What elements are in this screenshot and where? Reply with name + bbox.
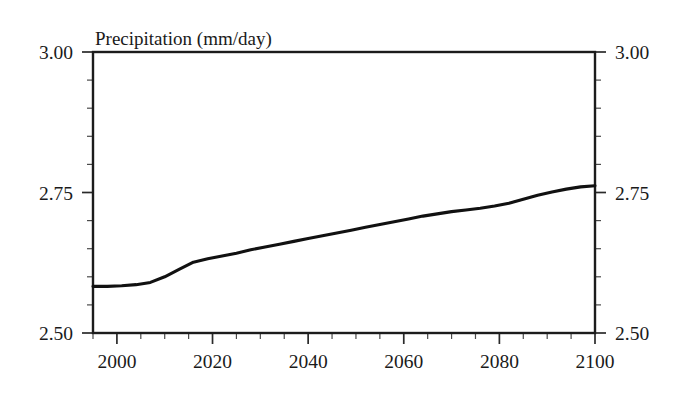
- y-axis-label-right: 3.00: [615, 42, 649, 63]
- y-axis-label-right: 2.50: [615, 323, 649, 344]
- y-axis-label-left: 2.75: [39, 183, 73, 204]
- chart-title-group: Precipitation (mm/day): [95, 28, 272, 50]
- x-axis-label: 2040: [289, 351, 328, 372]
- x-axis-label: 2080: [480, 351, 519, 372]
- x-axis-label: 2020: [193, 351, 232, 372]
- x-axis-label: 2060: [384, 351, 423, 372]
- x-axis-label: 2000: [97, 351, 136, 372]
- y-axis-label-left: 2.50: [39, 323, 73, 344]
- chart-title: Precipitation (mm/day): [95, 28, 272, 50]
- chart-figure: Precipitation (mm/day) 3.002.752.50 3.00…: [0, 0, 683, 406]
- chart-background: [0, 0, 683, 406]
- precipitation-line-chart: Precipitation (mm/day) 3.002.752.50 3.00…: [0, 0, 683, 406]
- x-axis-label: 2100: [576, 351, 615, 372]
- y-axis-label-left: 3.00: [39, 42, 73, 63]
- y-axis-label-right: 2.75: [615, 183, 649, 204]
